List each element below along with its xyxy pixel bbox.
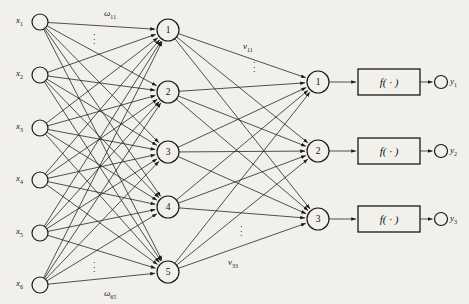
input-node-6: [32, 277, 48, 293]
hidden-node-3-text: 3: [166, 147, 171, 157]
network-svg: 12345123 f( · )f( · )f( · ): [0, 0, 469, 304]
edges-summation-to-activation: [329, 82, 356, 219]
hidden-node-1-text: 1: [166, 25, 171, 35]
hidden-node-4-text: 4: [166, 202, 171, 212]
input-node-5: [32, 225, 48, 241]
edges-input-to-hidden: [44, 22, 163, 284]
activation-box-label-2: f( · ): [380, 145, 399, 158]
activation-box-label-3: f( · ): [380, 213, 399, 226]
summation-node-1-text: 1: [316, 77, 321, 87]
neural-network-diagram: 12345123 f( · )f( · )f( · ) x1x2x3x4x5x6…: [0, 0, 469, 304]
hidden-node-5-text: 5: [166, 267, 171, 277]
activation-box-label-1: f( · ): [380, 76, 399, 89]
output-node-2: [435, 145, 448, 158]
activation-boxes-layer: f( · )f( · )f( · ): [358, 69, 420, 232]
hidden-node-2-text: 2: [166, 87, 171, 97]
output-node-3: [435, 213, 448, 226]
input-node-1: [32, 14, 48, 30]
input-node-3: [32, 120, 48, 136]
summation-node-3-text: 3: [316, 214, 321, 224]
summation-node-2-text: 2: [316, 146, 321, 156]
output-node-1: [435, 76, 448, 89]
edges-hidden-to-summation: [175, 34, 310, 269]
edges-activation-to-output: [420, 82, 433, 219]
input-node-2: [32, 67, 48, 83]
input-node-4: [32, 172, 48, 188]
